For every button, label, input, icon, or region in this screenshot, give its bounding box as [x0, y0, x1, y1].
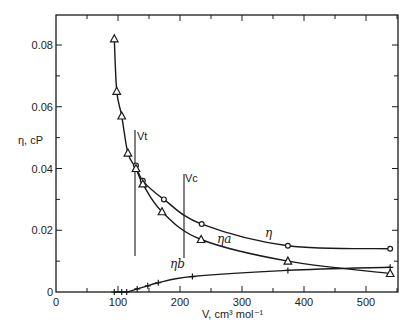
- series-label-eta-b: ηb: [170, 257, 185, 271]
- x-tick-label: 400: [295, 296, 313, 308]
- annotation-vt: Vt: [137, 130, 147, 142]
- plus-marker: [111, 289, 117, 295]
- x-tick-label: 200: [171, 296, 189, 308]
- y-tick-label: 0.08: [32, 39, 53, 51]
- plus-marker: [387, 264, 393, 270]
- curve-circle: [136, 165, 390, 248]
- y-tick-label: 0: [47, 286, 53, 298]
- circle-marker: [388, 246, 393, 251]
- x-axis-label: V, cm³ mol⁻¹: [202, 308, 264, 320]
- axis-ticks: [56, 15, 398, 292]
- data-curves: [114, 39, 390, 292]
- triangle-marker: [118, 112, 126, 119]
- reference-lines: [135, 130, 184, 258]
- plus-marker: [145, 283, 151, 289]
- plus-marker: [189, 274, 195, 280]
- x-tick-label: 500: [357, 296, 375, 308]
- plus-marker: [155, 280, 161, 286]
- y-axis-label: η, cP: [18, 134, 43, 146]
- triangle-marker: [124, 149, 132, 156]
- circle-marker: [199, 222, 204, 227]
- tick-labels: 010020030040050000.020.040.060.08: [32, 39, 376, 308]
- plus-marker: [124, 289, 130, 295]
- data-markers: [110, 35, 394, 295]
- annotation-vc: Vc: [185, 172, 198, 184]
- curve-plus: [114, 267, 390, 292]
- curve-triangle: [114, 39, 390, 274]
- x-tick-label: 100: [109, 296, 127, 308]
- y-tick-label: 0.04: [32, 163, 53, 175]
- y-tick-label: 0.06: [32, 101, 53, 113]
- triangle-marker: [113, 87, 121, 94]
- circle-marker: [161, 197, 166, 202]
- plus-marker: [285, 267, 291, 273]
- circle-marker: [285, 243, 290, 248]
- series-label-eta: η: [265, 226, 273, 240]
- y-tick-label: 0.02: [32, 224, 53, 236]
- series-label-eta-a: ηa: [217, 232, 231, 246]
- plus-marker: [134, 286, 140, 292]
- triangle-marker: [110, 35, 118, 42]
- x-tick-label: 0: [53, 296, 59, 308]
- plot-frame: [56, 15, 398, 292]
- x-tick-label: 300: [233, 296, 251, 308]
- viscosity-chart: 010020030040050000.020.040.060.08 η, cP …: [0, 0, 411, 333]
